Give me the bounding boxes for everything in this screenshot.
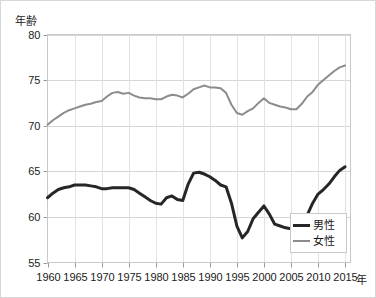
x-axis-tick-label: 1970 xyxy=(90,271,114,283)
legend-label-female: 女性 xyxy=(313,235,335,247)
y-axis-tick-label: 55 xyxy=(15,257,41,269)
x-axis-tick-label: 1960 xyxy=(36,271,60,283)
chart-plot-area xyxy=(1,1,376,298)
legend-item-female[interactable]: 女性 xyxy=(293,233,343,249)
y-axis-unit-label: 年齢 xyxy=(15,12,37,28)
x-axis-tick-label: 1980 xyxy=(144,271,168,283)
x-axis-tick-label: 2005 xyxy=(279,271,303,283)
x-axis-tick-label: 1975 xyxy=(117,271,141,283)
chart-figure: 年齢 年 556065707580 1960196519701975198019… xyxy=(0,0,376,298)
legend-swatch-female-icon xyxy=(293,240,310,242)
legend-swatch-male-icon xyxy=(293,224,310,227)
chart-legend: 男性 女性 xyxy=(290,213,347,253)
x-axis-tick-label: 2000 xyxy=(252,271,276,283)
x-axis-tick-label: 1965 xyxy=(63,271,87,283)
x-axis-tick-label: 2010 xyxy=(306,271,330,283)
y-axis-tick-label: 70 xyxy=(15,120,41,132)
y-axis-tick-label: 60 xyxy=(15,211,41,223)
y-axis-tick-label: 80 xyxy=(15,29,41,41)
legend-label-male: 男性 xyxy=(313,219,335,231)
y-axis-tick-label: 75 xyxy=(15,74,41,86)
x-axis-tick-label: 2015 xyxy=(333,271,357,283)
series-line-female xyxy=(48,66,346,125)
x-axis-tick-label: 1995 xyxy=(225,271,249,283)
x-axis-tick-label: 1985 xyxy=(171,271,195,283)
x-axis-tick-label: 1990 xyxy=(198,271,222,283)
legend-item-male[interactable]: 男性 xyxy=(293,217,343,233)
y-axis-tick-label: 65 xyxy=(15,165,41,177)
